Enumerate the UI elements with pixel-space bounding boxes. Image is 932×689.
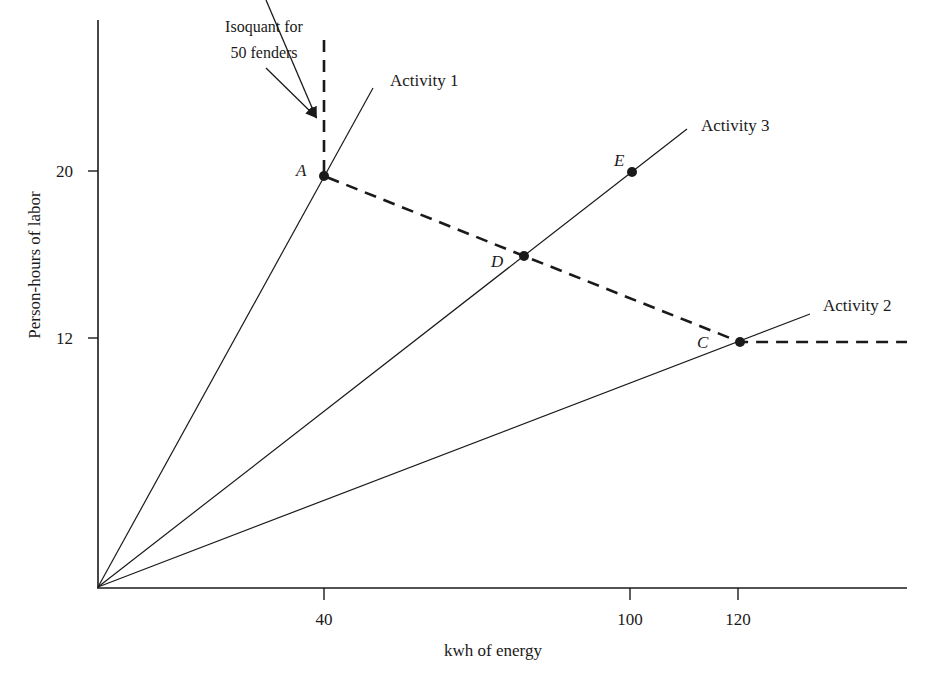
activity-2-label: Activity 2: [823, 296, 891, 315]
point-a-marker: [319, 171, 329, 181]
x-axis-title: kwh of energy: [444, 641, 542, 660]
point-d-marker: [519, 251, 529, 261]
x-tick-label-100: 100: [617, 610, 643, 629]
point-c-marker: [735, 337, 745, 347]
isoquant-label-line2: 50 fenders: [230, 44, 297, 61]
y-axis-title: Person-hours of labor: [25, 191, 44, 339]
activity-3-ray: [98, 129, 687, 587]
isoquant-chart: 20 12 40 100 120 kwh of energy Person-ho…: [0, 0, 932, 689]
x-tick-label-40: 40: [316, 610, 333, 629]
isoquant-label-line1: Isoquant for: [225, 18, 303, 36]
activity-2-ray: [98, 314, 810, 587]
point-a-label: A: [295, 161, 307, 180]
isoquant-arrow-shaft: [266, 68, 316, 117]
point-d-label: D: [490, 252, 504, 271]
activity-1-label: Activity 1: [390, 71, 458, 90]
activity-1-ray: [98, 88, 373, 587]
x-tick-label-120: 120: [725, 610, 751, 629]
y-tick-label-12: 12: [56, 329, 73, 348]
point-e-label: E: [613, 151, 625, 170]
point-c-label: C: [697, 333, 709, 352]
y-tick-label-20: 20: [56, 162, 73, 181]
point-e-marker: [627, 167, 637, 177]
activity-3-label: Activity 3: [701, 116, 769, 135]
